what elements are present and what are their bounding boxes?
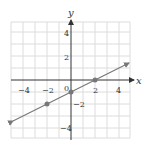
y-tick-label: −2 [73, 100, 85, 109]
y-tick-label: 2 [64, 53, 69, 62]
x-tick-label: 2 [93, 86, 98, 95]
coordinate-plane: x y −4 −2 0 2 4 4 2 −2 −4 [0, 0, 145, 145]
x-tick-label: −4 [18, 86, 30, 95]
x-axis-label: x [136, 75, 142, 86]
data-point [93, 78, 98, 83]
y-axis-label: y [67, 7, 74, 18]
y-tick-label: −4 [60, 124, 72, 133]
x-tick-label: 4 [116, 86, 121, 95]
y-tick-label: 4 [64, 29, 69, 38]
origin-label: 0 [64, 84, 69, 93]
data-point [45, 102, 50, 107]
x-tick-label: −2 [42, 86, 54, 95]
data-point [69, 90, 74, 95]
